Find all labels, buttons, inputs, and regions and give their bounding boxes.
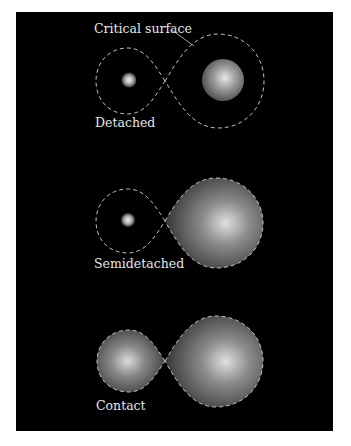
panel-semidetached: Semidetached [94, 178, 263, 271]
critical-surface-label: Critical surface [94, 21, 192, 36]
panel-contact: Contact [96, 316, 263, 413]
binary-star-diagram: Critical surface Detached Semidetached C… [0, 0, 351, 446]
semidetached-label: Semidetached [94, 256, 184, 271]
right-roche-lobe-filled [165, 178, 263, 268]
left-roche-lobe-filled [97, 330, 165, 392]
small-star [121, 213, 135, 227]
contact-label: Contact [96, 398, 146, 413]
small-star [122, 73, 137, 88]
large-star [202, 59, 244, 101]
right-roche-lobe-filled [165, 316, 263, 407]
panel-detached: Critical surface Detached [94, 21, 264, 130]
detached-label: Detached [95, 115, 155, 130]
